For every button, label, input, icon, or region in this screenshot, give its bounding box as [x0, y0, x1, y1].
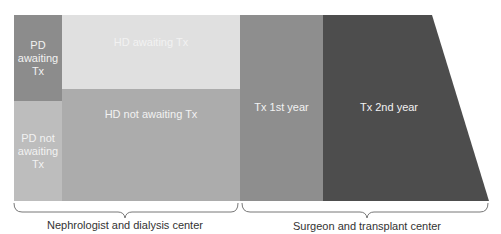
right-brace	[242, 203, 488, 218]
left-brace	[14, 203, 238, 218]
group-label-surgeon: Surgeon and transplant center	[267, 220, 467, 232]
group-label-nephrologist: Nephrologist and dialysis center	[25, 219, 225, 231]
tx-2nd-year-label-box: Tx 2nd year	[323, 15, 455, 201]
tx-2nd-year-label: Tx 2nd year	[360, 101, 418, 114]
